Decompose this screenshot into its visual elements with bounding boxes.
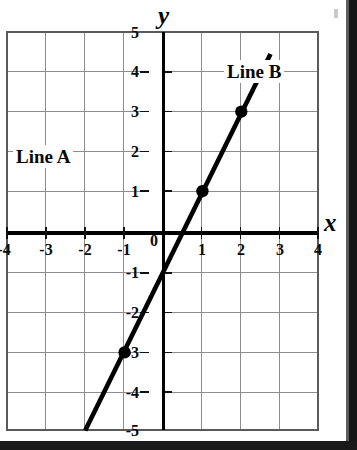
x-tick-neg3: -3 xyxy=(34,242,58,258)
scan-speck xyxy=(334,9,338,18)
y-tick-neg1: -1 xyxy=(115,265,139,281)
y-tick-neg2: -2 xyxy=(115,305,139,321)
point-2-3 xyxy=(235,105,247,117)
x-tick-3: 3 xyxy=(268,242,292,258)
y-tick-0: 0 xyxy=(138,233,158,249)
x-tick-neg4: -4 xyxy=(0,242,16,258)
scan-edge-bottom xyxy=(0,441,357,450)
line-a-label: Line A xyxy=(13,145,73,168)
y-tick-5: 5 xyxy=(119,25,139,41)
x-tick-neg2: -2 xyxy=(73,242,97,258)
y-tick-1: 1 xyxy=(119,184,139,200)
x-axis-label: x xyxy=(324,210,337,235)
graph-figure: 5 4 3 2 1 0 -1 -2 -3 -4 -5 -4 -3 -2 -1 1… xyxy=(0,0,357,450)
x-tick-2: 2 xyxy=(229,242,253,258)
y-tick-3: 3 xyxy=(119,104,139,120)
y-tick-4: 4 xyxy=(119,64,139,80)
y-tick-2: 2 xyxy=(119,144,139,160)
y-tick-neg3: -3 xyxy=(115,345,139,361)
y-axis-ticks xyxy=(140,32,172,430)
point-1-1 xyxy=(196,185,208,197)
line-b-label: Line B xyxy=(224,60,284,83)
y-axis-label: y xyxy=(158,3,169,28)
y-tick-neg5: -5 xyxy=(115,423,139,439)
coordinate-plane xyxy=(0,0,357,450)
x-tick-neg1: -1 xyxy=(112,242,136,258)
y-tick-neg4: -4 xyxy=(115,385,139,401)
x-tick-1: 1 xyxy=(190,242,214,258)
x-tick-4: 4 xyxy=(306,242,330,258)
scan-edge-right xyxy=(349,0,357,445)
